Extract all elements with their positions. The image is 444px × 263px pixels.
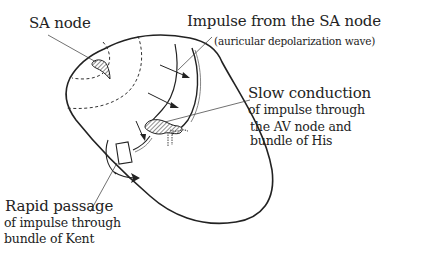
label-rapid-passage-line1: Rapid passage [5,199,113,214]
leader-impulse [178,37,212,70]
label-impulse-line2: (auricular depolarization wave) [214,36,375,47]
heart-conduction-diagram: SA node Impulse from the SA node (auricu… [0,0,444,263]
kent-impulse-arrow [114,172,140,183]
impulse-arrow-av [136,121,146,141]
label-rapid-passage-line2: of impulse through [4,217,121,230]
label-slow-conduction-line1: Slow conduction [248,86,371,101]
av-to-kent-line [133,136,150,150]
label-rapid-passage-line3: bundle of Kent [4,233,94,246]
av-node-shape [145,120,182,134]
label-slow-conduction-line3: the AV node and [250,121,351,134]
impulse-arrow-upper [160,65,190,78]
label-sa-node: SA node [29,16,91,31]
impulse-arrow-lower [148,93,179,108]
sa-node-shape [92,60,110,79]
atrial-boundary-line [148,44,177,126]
leader-sa-node [48,35,96,62]
label-slow-conduction-line2: of impulse through [248,104,365,117]
bundle-of-kent-shape [116,142,132,164]
his-bundle-line [172,48,198,134]
label-impulse-line1: Impulse from the SA node [187,14,381,29]
av-to-kent-line-2 [135,138,152,152]
leader-slow-conduction [165,100,250,122]
label-slow-conduction-line4: bundle of His [250,135,332,148]
